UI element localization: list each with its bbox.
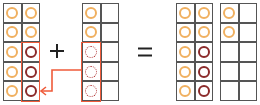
move-arrow-icon (0, 0, 260, 105)
equals-icon (138, 49, 152, 56)
plus-icon (50, 44, 64, 58)
